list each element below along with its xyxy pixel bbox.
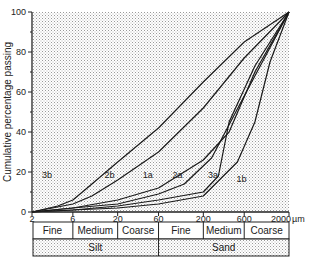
table-subclass-cell: Coarse [250,225,283,236]
table-mainclass-cell: Silt [88,242,102,253]
table-subclass-cell: Fine [171,225,191,236]
table-subclass-cell: Coarse [122,225,155,236]
curve-label-3b: 3b [42,170,52,180]
y-axis-label: Cumulative percentage passing [2,42,13,182]
curve-label-2a: 2a [172,170,182,180]
curve-label-1a: 1a [143,170,153,180]
y-ticks: 020406080100 [11,7,32,217]
x-unit-label: µm [292,214,305,224]
table-subclass-cell: Medium [77,225,113,236]
plot-area [33,12,289,212]
table-subclass-cell: Medium [206,225,242,236]
y-tick-label: 100 [11,7,26,17]
y-tick-label: 40 [16,127,26,137]
curve-label-3a: 3a [208,170,218,180]
y-tick-label: 0 [21,207,26,217]
y-tick-label: 80 [16,47,26,57]
curve-label-1b: 1b [237,174,247,184]
table-subclass-cell: Fine [43,225,63,236]
curve-label-2b: 2b [104,170,114,180]
y-tick-label: 20 [16,167,26,177]
table-mainclass-cell: Sand [212,242,235,253]
classification-table: FineMediumCoarseFineMediumCoarse SiltSan… [33,222,289,256]
grading-curve-chart: 3b2b1a2a3a1b 020406080100 26206020060020… [0,0,311,266]
y-tick-label: 60 [16,87,26,97]
